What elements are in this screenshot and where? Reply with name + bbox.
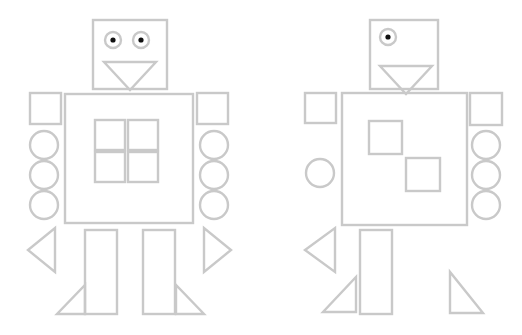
robot-right-left-shoulder-square [305,93,336,123]
robot-right-leg-rect-1 [360,230,392,314]
robot-right-body-square [342,93,467,225]
robot-left-right-arm-circle-2 [200,161,228,189]
robot-left-left-arm-circle-2 [30,161,58,189]
robot-right-left-arm-circle-1 [306,159,334,187]
robot-right-left-arm [305,93,336,272]
robot-left-eye-pupil-1 [110,37,115,42]
robot-right-foot-triangle-1 [323,277,356,312]
robot-right-right-arm-circle-2 [472,161,500,189]
robot-left-left-hand-triangle [28,228,55,272]
robot-right-right-arm-circle-3 [472,191,500,219]
robot-right-eye-pupil-1 [385,34,390,39]
drawing-canvas [0,0,522,335]
robot-right-torso [342,93,467,225]
robot-left-left-shoulder-square [30,93,61,124]
robot-left-body-inner-square-4 [128,152,158,182]
robot-left-foot-triangle-2 [176,285,204,314]
robot-right-head [370,20,438,94]
robot-left-eye-pupil-2 [138,37,143,42]
robot-left [28,20,231,314]
robot-left-right-hand-triangle [204,228,231,272]
robot-left-torso [65,94,193,223]
robot-left-left-arm [28,93,61,272]
robot-left-mouth-triangle [104,62,156,90]
robot-left-legs [57,230,204,314]
robot-right-foot-triangle-2 [450,272,483,313]
robot-right-right-arm [470,93,502,219]
robot-right-legs [323,230,483,314]
robot-left-right-arm-circle-3 [200,191,228,219]
robot-left-right-arm-circle-1 [200,131,228,159]
robot-left-left-arm-circle-3 [30,191,58,219]
robot-left-body-inner-square-1 [95,120,125,150]
robot-left-leg-rect-2 [143,230,175,314]
robot-left-head-square [93,20,167,89]
robot-left-body-inner-square-3 [95,152,125,182]
robot-left-right-arm [197,93,231,272]
robot-left-right-shoulder-square [197,93,228,124]
robot-right-body-inner-square-1 [369,121,402,154]
robots-illustration [0,0,522,335]
robot-right-right-shoulder-square [470,93,502,125]
robot-right-body-inner-square-2 [406,158,440,191]
robot-right-head-square [370,20,438,89]
robot-left-left-arm-circle-1 [30,131,58,159]
robot-left-leg-rect-1 [85,230,117,314]
robot-left-body-inner-square-2 [128,120,158,150]
robot-left-head [93,20,167,90]
robot-right [305,20,502,314]
robot-right-left-hand-triangle [305,228,335,272]
robot-right-right-arm-circle-1 [472,131,500,159]
robot-left-foot-triangle-1 [57,285,85,314]
